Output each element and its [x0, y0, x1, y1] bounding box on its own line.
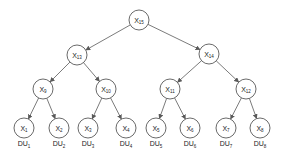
node-x7: X7: [216, 118, 236, 138]
edge-x9-to-x2: [47, 98, 55, 118]
leaf-label-du8: DU8: [254, 140, 267, 149]
edges-group: [28, 24, 256, 119]
node-x5: X5: [146, 118, 166, 138]
node-x11: X11: [160, 79, 180, 99]
leaf-label-du2: DU2: [53, 140, 66, 149]
leaf-label-du6: DU6: [184, 140, 197, 149]
edge-x11-to-x6: [175, 98, 186, 119]
node-x14: X14: [199, 44, 219, 64]
node-x6: X6: [180, 118, 200, 138]
edge-x10-to-x4: [111, 98, 122, 119]
leaf-label-du3: DU3: [82, 140, 95, 149]
leaf-label-du1: DU1: [18, 140, 31, 149]
edge-x10-to-x3: [92, 98, 102, 119]
node-x4: X4: [116, 118, 136, 138]
node-x2: X2: [49, 118, 69, 138]
edge-x15-to-x14: [148, 24, 200, 49]
edge-x12-to-x7: [231, 98, 242, 119]
tree-diagram: X15X13X14X9X10X11X12X1X2X3X4X5X6X7X8 DU1…: [0, 0, 283, 157]
leaf-label-du7: DU7: [220, 140, 233, 149]
node-x10: X10: [96, 79, 116, 99]
node-x12: X12: [236, 79, 256, 99]
edge-x11-to-x5: [159, 98, 166, 118]
nodes-group: X15X13X14X9X10X11X12X1X2X3X4X5X6X7X8: [14, 10, 270, 138]
node-x15: X15: [129, 10, 149, 30]
edge-x13-to-x10: [83, 63, 99, 82]
edge-x13-to-x9: [50, 62, 70, 82]
node-x13: X13: [67, 45, 87, 65]
leaf-labels-group: DU1DU2DU3DU4DU5DU6DU7DU8: [18, 140, 267, 149]
node-x3: X3: [78, 118, 98, 138]
edge-x14-to-x12: [216, 61, 238, 82]
edge-x9-to-x1: [28, 98, 38, 119]
leaf-label-du4: DU4: [120, 140, 133, 149]
edge-x14-to-x11: [177, 61, 201, 83]
edge-x15-to-x13: [86, 25, 131, 50]
edge-x12-to-x8: [249, 98, 256, 118]
leaf-label-du5: DU5: [150, 140, 163, 149]
node-x1: X1: [14, 118, 34, 138]
node-x9: X9: [33, 79, 53, 99]
node-x8: X8: [250, 118, 270, 138]
